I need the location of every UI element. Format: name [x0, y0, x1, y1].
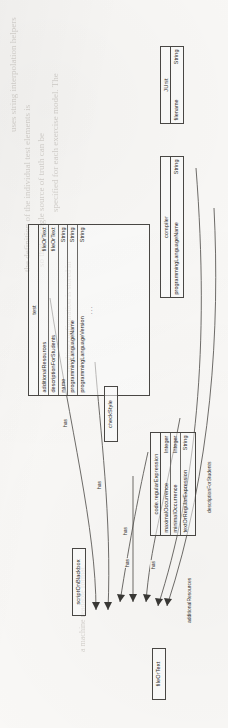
attr-name: programmingLanguageName — [69, 320, 75, 392]
attr-name: name — [60, 379, 66, 393]
uml-attribute-list: programmingLanguageName String — [171, 157, 180, 297]
attr-type: String — [182, 436, 188, 451]
edge-label-has: has — [150, 560, 156, 570]
attr-type: String — [173, 160, 179, 175]
uml-attribute: programmingLanguageName String — [171, 157, 180, 297]
uml-class-title: scriptOnBlackbox — [73, 549, 82, 615]
attr-type: String — [173, 50, 179, 65]
uml-class-checkstyle[interactable]: checkStyle — [104, 386, 118, 442]
attr-type: Integer — [172, 436, 178, 453]
attr-name: textOrRegularExpression — [182, 470, 188, 533]
edge-label-has: has — [124, 558, 130, 568]
edge-label-additional-resources: additionalResources — [186, 577, 192, 624]
uml-attribute-list: maximalOccurrence Integer minimalOccurre… — [161, 433, 189, 535]
attr-type: fileOrText — [41, 228, 47, 252]
attr-type: String — [79, 228, 85, 243]
attr-name: minimalOccurrence — [172, 484, 178, 532]
edge-label-description-for-students: descriptionForStudents — [206, 461, 212, 514]
uml-class-title: compiler — [161, 157, 171, 297]
uml-attribute: textOrRegularExpression String — [181, 433, 190, 535]
attr-type: Integer — [163, 436, 169, 453]
attr-name: filename — [173, 99, 179, 120]
uml-attribute-list: filename String — [171, 47, 180, 123]
attr-name: maximalOccurrence — [163, 483, 169, 533]
uml-attribute-ellipsis: ... — [86, 225, 96, 395]
uml-class-code-regular-expression[interactable]: code.regularExpression maximalOccurrence… — [150, 432, 196, 536]
uml-attribute: filename String — [171, 47, 180, 123]
scanned-book-page: uses string interpolation helpers the de… — [0, 0, 228, 728]
uml-class-title: fileOrText — [153, 649, 162, 699]
attr-name: additionalResources — [41, 342, 47, 393]
attr-name: programmingLanguageVersion — [79, 316, 85, 392]
uml-class-diagram: test additionalResources fileOrText desc… — [0, 0, 228, 728]
uml-attribute: additionalResources fileOrText — [39, 225, 49, 395]
uml-attribute-list: additionalResources fileOrText descripti… — [39, 225, 86, 395]
attr-type: String — [60, 228, 66, 243]
uml-attribute: minimalOccurrence Integer — [171, 433, 181, 535]
uml-class-test[interactable]: test additionalResources fileOrText desc… — [28, 224, 150, 396]
uml-class-title: code.regularExpression — [151, 433, 161, 535]
edge-label-has: has — [62, 418, 68, 428]
edge-label-has: has — [96, 480, 102, 490]
uml-class-script-on-blackbox[interactable]: scriptOnBlackbox — [72, 548, 86, 616]
uml-attribute: descriptionForStudents fileOrText — [49, 225, 59, 395]
uml-class-title: JUnit — [161, 47, 171, 123]
attr-type: fileOrText — [50, 228, 56, 252]
uml-attribute: name String — [59, 225, 69, 395]
uml-class-title: test — [29, 225, 39, 395]
uml-class-file-or-text[interactable]: fileOrText — [152, 648, 166, 700]
uml-class-compiler[interactable]: compiler programmingLanguageName String — [160, 156, 184, 298]
attr-type: String — [69, 228, 75, 243]
attr-name: programmingLanguageName — [173, 222, 179, 294]
uml-attribute: programmingLanguageVersion String — [78, 225, 87, 395]
uml-attribute: programmingLanguageName String — [68, 225, 78, 395]
attr-name: descriptionForStudents — [50, 335, 56, 393]
edge-label-has: has — [122, 526, 128, 536]
uml-class-title: checkStyle — [105, 387, 114, 441]
uml-attribute: maximalOccurrence Integer — [161, 433, 171, 535]
uml-class-junit[interactable]: JUnit filename String — [160, 46, 184, 124]
